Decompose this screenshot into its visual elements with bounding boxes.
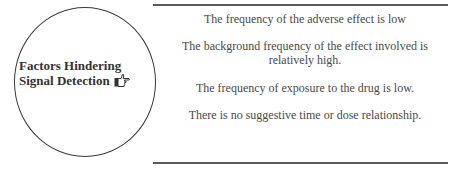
pointing-hand-icon: [114, 73, 130, 90]
factor-item: There is no suggestive time or dose rela…: [160, 108, 450, 122]
central-node-label: Factors Hindering Signal Detection: [19, 58, 149, 90]
central-node-line1: Factors Hindering: [19, 58, 149, 73]
factor-item: The frequency of exposure to the drug is…: [160, 81, 450, 95]
factor-item: The frequency of the adverse effect is l…: [160, 12, 450, 26]
factor-item: The background frequency of the effect i…: [160, 39, 450, 67]
central-node-line2: Signal Detection: [19, 73, 110, 88]
bottom-rule: [153, 162, 448, 164]
top-rule: [153, 4, 448, 6]
factor-list: The frequency of the adverse effect is l…: [160, 10, 450, 122]
